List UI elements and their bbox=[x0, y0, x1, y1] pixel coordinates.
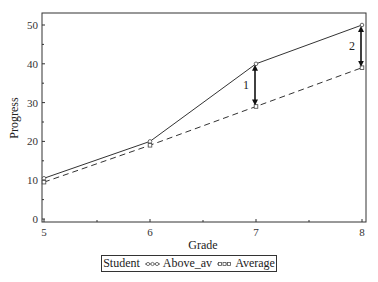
y-tick-label: 10 bbox=[27, 174, 39, 186]
x-tick-label: 7 bbox=[253, 226, 259, 238]
square-marker-icon bbox=[217, 260, 232, 268]
y-axis-title: Progress bbox=[7, 97, 21, 139]
data-point bbox=[148, 140, 152, 144]
legend-item-average: Average bbox=[217, 256, 275, 271]
data-point bbox=[254, 62, 258, 66]
legend-label: Average bbox=[235, 256, 275, 271]
series-line-average bbox=[44, 68, 362, 182]
x-tick-label: 6 bbox=[147, 226, 153, 238]
annotation-label: 1 bbox=[243, 78, 249, 92]
legend-title: Student bbox=[103, 256, 140, 271]
y-tick-label: 0 bbox=[33, 213, 39, 225]
data-point bbox=[42, 180, 46, 184]
y-tick-label: 20 bbox=[27, 135, 39, 147]
y-tick-label: 50 bbox=[27, 19, 39, 31]
data-point bbox=[360, 66, 364, 70]
data-point bbox=[254, 105, 258, 109]
x-tick-label: 5 bbox=[41, 226, 47, 238]
legend-label: Above_av bbox=[163, 256, 212, 271]
annotation-label: 2 bbox=[349, 39, 355, 53]
circle-marker-icon bbox=[145, 260, 160, 268]
x-tick-label: 8 bbox=[359, 226, 365, 238]
plot-frame bbox=[42, 13, 366, 222]
series-group bbox=[42, 23, 364, 184]
plot-area: 010203040505678 bbox=[27, 13, 366, 238]
legend-item-above-av: Above_av bbox=[145, 256, 212, 271]
data-point bbox=[42, 176, 46, 180]
series-line-above-av bbox=[44, 25, 362, 178]
data-point bbox=[148, 143, 152, 147]
x-axis-title: Grade bbox=[188, 238, 217, 252]
data-point bbox=[360, 23, 364, 27]
y-tick-label: 30 bbox=[27, 97, 39, 109]
line-chart: 010203040505678 12 Grade Progress bbox=[0, 0, 378, 282]
legend: Student Above_av Average bbox=[101, 255, 277, 272]
y-tick-label: 40 bbox=[27, 58, 39, 70]
annotations: 12 bbox=[243, 29, 361, 102]
